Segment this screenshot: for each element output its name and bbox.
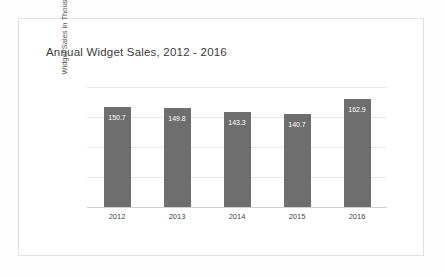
x-axis-tick-labels: 2012 2013 2014 2015 2016: [87, 212, 387, 221]
x-tick-2014: 2014: [207, 212, 267, 221]
bar-value-label-2014: 143.3: [207, 119, 267, 126]
bar-group-2014[interactable]: 143.3: [207, 87, 267, 207]
bar-value-label-2013: 149.8: [147, 115, 207, 122]
x-tick-2013: 2013: [147, 212, 207, 221]
chart-card: Annual Widget Sales, 2012 - 2016 Widget …: [18, 18, 424, 256]
y-axis-title: Widget Sales in Thousands: [60, 0, 69, 89]
x-axis-line: [87, 207, 387, 208]
bar-2012[interactable]: [104, 107, 131, 207]
bar-group-2016[interactable]: 162.9: [327, 87, 387, 207]
bar-group-2012[interactable]: 150.7: [87, 87, 147, 207]
plot-area: 150.7 149.8 143.3 140.7 162.9: [87, 87, 387, 207]
chart-title: Annual Widget Sales, 2012 - 2016: [46, 46, 227, 58]
bar-2016[interactable]: [344, 99, 371, 207]
bar-value-label-2016: 162.9: [327, 106, 387, 113]
bar-series: 150.7 149.8 143.3 140.7 162.9: [87, 87, 387, 207]
bar-value-label-2015: 140.7: [267, 121, 327, 128]
bar-2013[interactable]: [164, 108, 191, 207]
bar-2014[interactable]: [224, 112, 251, 207]
x-tick-2012: 2012: [87, 212, 147, 221]
x-tick-2016: 2016: [327, 212, 387, 221]
x-tick-2015: 2015: [267, 212, 327, 221]
y-axis-title-holder: Widget Sales in Thousands: [66, 87, 78, 207]
bar-group-2013[interactable]: 149.8: [147, 87, 207, 207]
page-background: Annual Widget Sales, 2012 - 2016 Widget …: [0, 0, 444, 276]
bar-group-2015[interactable]: 140.7: [267, 87, 327, 207]
bar-value-label-2012: 150.7: [87, 114, 147, 121]
